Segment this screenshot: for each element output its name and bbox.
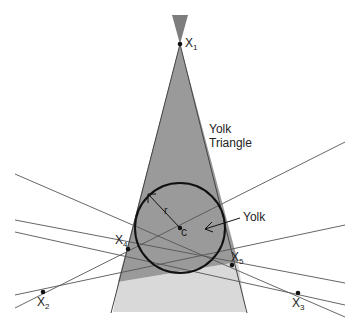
yolk-triangle-region [118, 44, 238, 282]
diagram-graphic [0, 0, 362, 331]
point-label-x5: X5 [231, 251, 243, 268]
radius-label: r [164, 204, 168, 217]
point-label-x3: X3 [292, 297, 304, 314]
yolk-triangle-label-line2: Triangle [209, 137, 252, 150]
point-label-x2: X2 [37, 296, 49, 313]
point-label-x4: X4 [115, 234, 127, 251]
yolk-triangle-label-line1: Yolk [209, 123, 231, 136]
center-label: c [181, 226, 187, 239]
yolk-diagram: X1 X2 X3 X4 X5 Yolk Triangle Yolk r c [0, 0, 362, 331]
point-label-x1: X1 [185, 37, 197, 54]
yolk-label: Yolk [243, 211, 265, 224]
